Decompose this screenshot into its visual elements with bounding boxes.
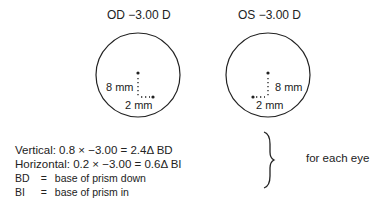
- os-vertical-label: 8 mm: [275, 81, 303, 93]
- definition-meaning: base of prism in: [55, 186, 129, 198]
- od-title: OD −3.00 D: [107, 8, 171, 22]
- definition-meaning: base of prism down: [55, 172, 146, 184]
- definition-bd: BD = base of prism down: [15, 172, 146, 185]
- horizontal-equation: Horizontal: 0.2 × −3.00 = 0.6Δ BI: [15, 157, 182, 171]
- vertical-equation: Vertical: 0.8 × −3.00 = 2.4Δ BD: [15, 143, 173, 157]
- os-optical-center-dot: [266, 71, 269, 74]
- od-vertical-label: 8 mm: [106, 81, 134, 93]
- os-pupil-dot: [251, 95, 254, 98]
- definition-equals: =: [36, 172, 52, 185]
- definition-equals: =: [36, 186, 52, 199]
- definition-abbr: BD: [15, 172, 33, 185]
- od-optical-center-dot: [136, 71, 139, 74]
- curly-brace: [264, 132, 274, 188]
- os-title: OS −3.00 D: [238, 8, 301, 22]
- brace-note: for each eye: [306, 152, 369, 164]
- definition-abbr: BI: [15, 186, 33, 199]
- os-horizontal-label: 2 mm: [256, 99, 284, 111]
- definition-bi: BI = base of prism in: [15, 186, 129, 199]
- od-horizontal-label: 2 mm: [125, 99, 153, 111]
